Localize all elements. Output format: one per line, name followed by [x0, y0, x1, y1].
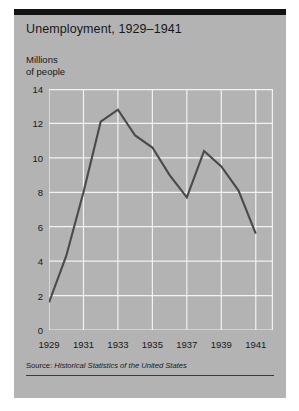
plot-area: 02468101214 1929193119331935193719391941 — [49, 89, 273, 330]
x-tick-label: 1929 — [38, 339, 59, 350]
y-tick-label: 8 — [38, 187, 43, 198]
chart-card: Unemployment, 1929–1941 Millions of peop… — [14, 9, 286, 398]
gridlines — [49, 89, 273, 330]
y-tick-label: 4 — [38, 256, 43, 267]
y-tick-label: 10 — [32, 152, 43, 163]
source-note: Source: Historical Statistics of the Uni… — [26, 361, 187, 370]
plot-wrapper: 02468101214 1929193119331935193719391941 — [14, 9, 286, 398]
x-tick-label: 1939 — [211, 339, 232, 350]
x-tick-label: 1933 — [107, 339, 128, 350]
y-tick-label: 0 — [38, 325, 43, 336]
source-title: Historical Statistics of the United Stat… — [54, 361, 187, 370]
y-tick-label: 12 — [32, 118, 43, 129]
y-tick-label: 6 — [38, 221, 43, 232]
source-divider — [26, 375, 274, 376]
x-tick-label: 1935 — [142, 339, 163, 350]
x-tick-label: 1937 — [176, 339, 197, 350]
y-tick-label: 14 — [32, 84, 43, 95]
x-tick-label: 1941 — [245, 339, 266, 350]
plot-frame — [49, 89, 273, 330]
source-label: Source: — [26, 361, 54, 370]
line-chart-svg — [49, 89, 273, 330]
x-tick-label: 1931 — [73, 339, 94, 350]
y-tick-label: 2 — [38, 290, 43, 301]
